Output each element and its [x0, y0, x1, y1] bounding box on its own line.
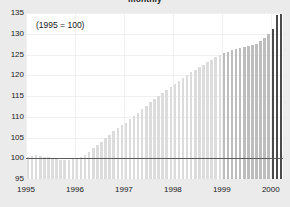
bar: [239, 48, 242, 179]
bar: [149, 102, 152, 179]
x-tick-label-1997: 1997: [115, 186, 133, 194]
y-axis-ticks: 13513012512011511010510095: [0, 13, 24, 179]
x-tick-label-1999: 1999: [213, 186, 231, 194]
bar: [153, 99, 156, 179]
chart-container: monthly (1995 = 100) 1351301251201151101…: [0, 0, 290, 207]
bar: [267, 34, 270, 179]
bar: [108, 135, 111, 179]
bar: [276, 15, 279, 179]
bar: [63, 160, 66, 179]
bar: [31, 156, 34, 179]
bar: [47, 157, 50, 179]
bar: [182, 78, 185, 179]
bar: [117, 128, 120, 179]
bar: [133, 116, 136, 179]
bar: [125, 123, 128, 179]
bar: [80, 157, 83, 179]
bar: [214, 57, 217, 179]
bar: [141, 109, 144, 179]
bar: [219, 55, 222, 179]
bar: [68, 160, 71, 179]
x-axis-ticks: 199519961997199819992000: [26, 186, 283, 198]
bar: [190, 72, 193, 179]
bar: [96, 145, 99, 179]
bar: [272, 29, 275, 179]
y-tick-label-100: 100: [2, 154, 24, 162]
y-tick-label-130: 130: [2, 30, 24, 38]
bar: [210, 60, 213, 179]
y-tick-label-115: 115: [2, 92, 24, 100]
bar: [92, 148, 95, 179]
x-tick-label-2000: 2000: [262, 186, 280, 194]
y-tick-label-110: 110: [2, 113, 24, 121]
bar: [112, 131, 115, 179]
x-tick-label-1995: 1995: [17, 186, 35, 194]
index-base-annotation: (1995 = 100): [36, 20, 84, 30]
bar: [161, 93, 164, 179]
bar: [174, 84, 177, 179]
bar: [88, 152, 91, 179]
chart-title: monthly: [0, 0, 290, 4]
plot-area: [26, 13, 283, 179]
bar: [227, 52, 230, 179]
bar: [223, 53, 226, 179]
bar: [55, 159, 58, 179]
baseline-100: [26, 158, 283, 159]
bar: [145, 106, 148, 179]
bar: [59, 160, 62, 179]
bar: [157, 96, 160, 179]
bar: [280, 14, 283, 179]
bar: [51, 158, 54, 179]
bar: [165, 90, 168, 179]
y-tick-label-135: 135: [2, 9, 24, 17]
bar: [121, 125, 124, 179]
y-tick-label-95: 95: [2, 175, 24, 183]
bar: [137, 113, 140, 179]
bar: [202, 65, 205, 179]
bar-series: [26, 13, 283, 179]
bar: [100, 142, 103, 179]
bar: [186, 75, 189, 179]
x-tick-label-1998: 1998: [164, 186, 182, 194]
bar: [76, 158, 79, 179]
bar: [231, 50, 234, 179]
y-tick-label-105: 105: [2, 134, 24, 142]
bar: [178, 81, 181, 179]
bar: [235, 49, 238, 179]
bar: [72, 159, 75, 179]
bar: [206, 62, 209, 179]
bar: [170, 87, 173, 179]
bar: [43, 157, 46, 179]
bar: [198, 67, 201, 179]
y-tick-label-125: 125: [2, 51, 24, 59]
bar: [194, 70, 197, 179]
bar: [27, 157, 30, 179]
bar: [129, 119, 132, 179]
y-tick-label-120: 120: [2, 71, 24, 79]
x-tick-label-1996: 1996: [66, 186, 84, 194]
